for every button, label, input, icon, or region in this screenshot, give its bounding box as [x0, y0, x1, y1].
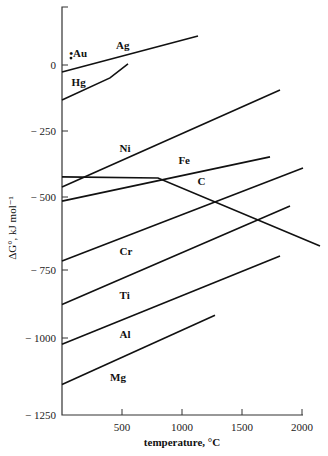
y-axis-title: ΔG°, kJ mol⁻¹ [6, 196, 18, 260]
series-line-al [62, 256, 280, 344]
series-lines [62, 36, 320, 385]
label-al: Al [120, 328, 131, 340]
x-tick-label: 1000 [171, 421, 194, 433]
label-ti: Ti [120, 289, 130, 301]
series-line-fe [62, 157, 270, 201]
label-c: C [198, 175, 206, 187]
y-tick-label: − 1000 [25, 332, 56, 344]
x-axis-title: temperature, °C [144, 436, 220, 448]
label-ag: Ag [116, 39, 130, 51]
label-fe: Fe [178, 154, 190, 166]
series-line-mg [62, 315, 215, 384]
series-line-ti [62, 206, 290, 304]
series-line-cr [62, 168, 303, 261]
series-line-ni [62, 90, 280, 187]
y-tick-label: − 750 [31, 264, 57, 276]
x-tick-label: 500 [114, 421, 131, 433]
y-tick-label: − 1250 [25, 409, 56, 421]
label-ni: Ni [120, 142, 131, 154]
label-au: •Au [69, 47, 87, 59]
ellingham-diagram: 0− 250− 500− 750− 1000− 1250500100015002… [0, 0, 328, 456]
y-tick-label: − 250 [31, 125, 57, 137]
label-hg: Hg [72, 76, 87, 88]
y-tick-label: − 500 [31, 191, 57, 203]
y-tick-label: 0 [51, 59, 57, 71]
x-tick-label: 2000 [291, 421, 314, 433]
label-mg: Mg [110, 371, 126, 383]
label-cr: Cr [120, 245, 133, 257]
series-labels: Ag•AuHgNiFeCCrTiAlMg [69, 39, 205, 383]
axis-lines [62, 7, 303, 415]
x-tick-label: 1500 [231, 421, 254, 433]
